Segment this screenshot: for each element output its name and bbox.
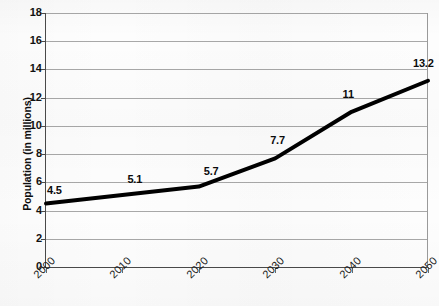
y-tick-label-4: 4	[20, 205, 42, 216]
y-tick-label-2: 2	[20, 233, 42, 244]
y-tick-label-8: 8	[20, 148, 42, 159]
data-label-2040: 11	[343, 88, 354, 100]
y-tick-label-10: 10	[20, 120, 42, 131]
plot-area	[45, 13, 428, 268]
series-line-population	[46, 13, 428, 267]
data-label-2030: 7.7	[270, 134, 285, 146]
y-tick-label-18: 18	[20, 7, 42, 18]
y-tick-label-16: 16	[20, 35, 42, 46]
y-axis-tick-labels: 181614121086420	[16, 0, 42, 306]
population-line-chart: Population (in millions) 181614121086420…	[0, 0, 439, 306]
data-label-2000: 4.5	[47, 184, 62, 196]
data-label-2010: 5.1	[127, 173, 142, 185]
y-tick-label-12: 12	[20, 92, 42, 103]
data-label-2020: 5.7	[204, 165, 219, 177]
data-label-2050: 13.2	[413, 57, 434, 69]
y-tick-label-14: 14	[20, 63, 42, 74]
y-tick-label-6: 6	[20, 176, 42, 187]
